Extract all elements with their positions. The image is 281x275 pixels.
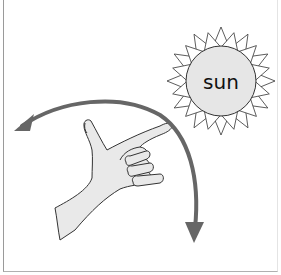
finger-little bbox=[132, 174, 163, 186]
arrowhead-down bbox=[185, 222, 204, 243]
diagram-canvas: sun bbox=[0, 0, 281, 275]
hand-icon bbox=[55, 120, 172, 240]
sun: sun bbox=[167, 27, 275, 135]
arrowhead-left bbox=[14, 114, 34, 131]
sun-label: sun bbox=[203, 70, 239, 94]
